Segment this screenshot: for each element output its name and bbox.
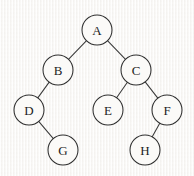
node-label-f: F (163, 103, 170, 118)
node-label-e: E (104, 103, 112, 118)
tree-edge-a-c (107, 41, 125, 60)
binary-tree-diagram: ABCDEFGH (0, 0, 194, 176)
node-label-g: G (58, 143, 67, 158)
tree-edge-c-e (117, 82, 128, 97)
node-label-c: C (132, 63, 141, 78)
tree-node-e[interactable]: E (93, 95, 123, 125)
tree-edge-a-b (68, 41, 86, 60)
tree-node-c[interactable]: C (121, 55, 151, 85)
tree-node-b[interactable]: B (43, 55, 73, 85)
node-label-h: H (140, 143, 149, 158)
tree-canvas: ABCDEFGH (0, 0, 194, 176)
tree-node-d[interactable]: D (14, 95, 44, 125)
tree-edge-d-g (39, 121, 54, 138)
tree-edge-b-d (38, 82, 49, 98)
node-label-d: D (24, 103, 33, 118)
tree-edge-c-f (145, 82, 158, 98)
node-label-b: B (54, 63, 63, 78)
tree-edge-f-h (152, 123, 160, 137)
node-label-a: A (92, 23, 102, 38)
tree-node-g[interactable]: G (48, 135, 78, 165)
node-layer: ABCDEFGH (14, 15, 182, 165)
tree-node-h[interactable]: H (130, 135, 160, 165)
tree-node-a[interactable]: A (82, 15, 112, 45)
tree-node-f[interactable]: F (152, 95, 182, 125)
